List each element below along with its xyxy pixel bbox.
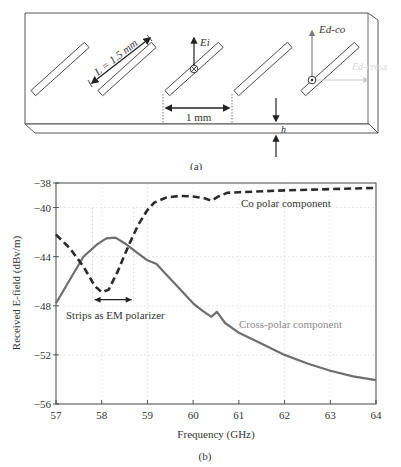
- caption-b: (b): [199, 450, 212, 463]
- co-polar-label: Co polar component: [241, 197, 331, 209]
- y-tick-label: −48: [34, 300, 52, 312]
- figure-b-chart: 5758596061626364−38−40−44−48−52−56 Co po…: [0, 0, 401, 467]
- x-tick-label: 62: [279, 409, 290, 421]
- y-tick-label: −38: [34, 177, 52, 189]
- y-tick-label: −40: [34, 202, 52, 214]
- x-tick-label: 58: [96, 409, 108, 421]
- x-tick-label: 59: [142, 409, 154, 421]
- axis-ticks: 5758596061626364−38−40−44−48−52−56: [34, 177, 382, 421]
- y-tick-label: −44: [34, 251, 52, 263]
- cross-polar-label: Cross-polar component: [239, 318, 342, 330]
- x-axis-label: Frequency (GHz): [177, 428, 255, 441]
- x-tick-label: 57: [51, 409, 63, 421]
- x-tick-label: 60: [188, 409, 200, 421]
- polarizer-label: Strips as EM polarizer: [66, 309, 165, 321]
- y-axis-label: Received E-field (dBv/m): [10, 236, 23, 351]
- y-tick-label: −56: [34, 398, 52, 410]
- x-tick-label: 63: [325, 409, 337, 421]
- x-tick-label: 61: [233, 409, 244, 421]
- y-tick-label: −52: [34, 349, 51, 361]
- x-tick-label: 64: [371, 409, 383, 421]
